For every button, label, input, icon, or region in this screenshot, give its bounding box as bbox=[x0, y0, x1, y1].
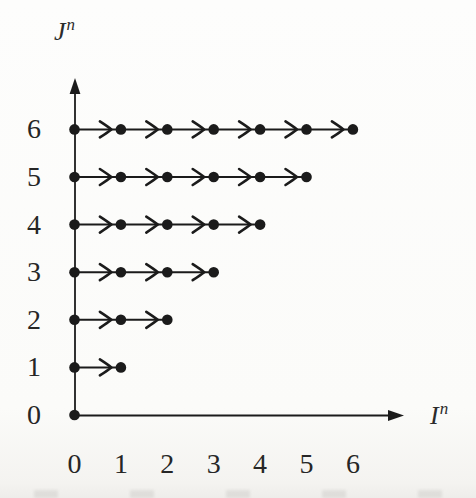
lattice-diagram: 0123456 0123456 Jn In bbox=[0, 0, 476, 498]
lattice-row bbox=[69, 121, 358, 137]
lattice-dot bbox=[69, 219, 80, 230]
y-tick-label: 3 bbox=[27, 256, 41, 287]
lattice-dot bbox=[69, 410, 80, 421]
y-tick-label: 1 bbox=[27, 351, 41, 382]
lattice-dot bbox=[301, 124, 312, 135]
lattice-row bbox=[69, 217, 265, 233]
lattice-dot bbox=[255, 124, 266, 135]
lattice-dot bbox=[255, 219, 266, 230]
lattice-dot bbox=[116, 362, 127, 373]
lattice-dot bbox=[208, 124, 219, 135]
lattice-row bbox=[69, 359, 126, 375]
y-tick-label: 6 bbox=[27, 113, 41, 144]
y-axis-title-superscript: n bbox=[67, 15, 76, 34]
lattice-dot bbox=[69, 172, 80, 183]
lattice-dot bbox=[116, 315, 127, 326]
x-axis bbox=[75, 410, 404, 421]
y-tick-label: 2 bbox=[27, 304, 41, 335]
x-tick-label: 0 bbox=[68, 448, 82, 479]
lattice-dot bbox=[348, 124, 359, 135]
lattice-dot bbox=[69, 267, 80, 278]
lattice-dot bbox=[69, 362, 80, 373]
y-tick-label: 5 bbox=[27, 161, 41, 192]
x-tick-labels: 0123456 bbox=[68, 448, 360, 479]
lattice-row bbox=[69, 169, 312, 185]
lattice-dot bbox=[69, 124, 80, 135]
x-axis-arrowhead-icon bbox=[388, 410, 404, 421]
y-tick-label: 4 bbox=[27, 209, 41, 240]
scanned-figure-page: 0123456 0123456 Jn In bbox=[0, 0, 476, 498]
y-axis-title: Jn bbox=[54, 15, 75, 46]
lattice-dot bbox=[255, 172, 266, 183]
x-axis-title: In bbox=[429, 399, 448, 430]
lattice-dot bbox=[162, 172, 173, 183]
lattice-dot bbox=[162, 267, 173, 278]
x-tick-label: 1 bbox=[114, 448, 128, 479]
lattice-dot bbox=[116, 172, 127, 183]
lattice-dot bbox=[162, 315, 173, 326]
x-axis-title-base: I bbox=[429, 401, 440, 430]
lattice-row bbox=[69, 264, 219, 280]
y-axis-title-base: J bbox=[54, 17, 67, 46]
lattice-dot bbox=[208, 172, 219, 183]
y-tick-label: 0 bbox=[27, 399, 41, 430]
lattice-dot bbox=[69, 315, 80, 326]
x-tick-label: 3 bbox=[207, 448, 221, 479]
lattice-dot bbox=[301, 172, 312, 183]
lattice-row bbox=[69, 410, 80, 421]
x-tick-label: 4 bbox=[253, 448, 267, 479]
lattice-dot bbox=[162, 219, 173, 230]
lattice-dot bbox=[116, 267, 127, 278]
y-tick-labels: 0123456 bbox=[27, 113, 41, 430]
x-tick-label: 6 bbox=[346, 448, 360, 479]
x-axis-title-superscript: n bbox=[440, 399, 449, 418]
lattice-dot bbox=[208, 267, 219, 278]
lattice-dot bbox=[116, 219, 127, 230]
lattice-dot bbox=[162, 124, 173, 135]
scan-artifact-strip bbox=[0, 490, 476, 498]
y-axis-arrowhead-icon bbox=[70, 78, 81, 94]
lattice-dot bbox=[208, 219, 219, 230]
lattice-row bbox=[69, 312, 172, 328]
x-tick-label: 2 bbox=[160, 448, 174, 479]
lattice-rows-layer bbox=[69, 121, 358, 420]
lattice-dot bbox=[116, 124, 127, 135]
x-tick-label: 5 bbox=[300, 448, 314, 479]
